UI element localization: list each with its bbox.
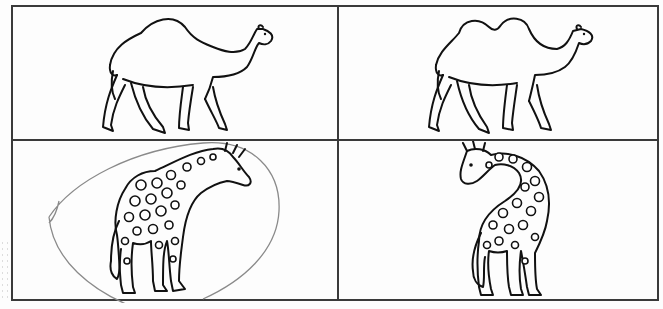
cell-giraffe-head-right[interactable] (13, 141, 337, 301)
giraffe-head-left-icon (339, 141, 659, 303)
worksheet (0, 0, 663, 309)
cell-camel-one-hump[interactable] (13, 7, 337, 139)
camel-one-hump-icon (13, 7, 337, 139)
giraffe-head-right-icon (13, 141, 337, 303)
camel-two-humps-icon (339, 7, 659, 139)
cell-giraffe-head-left[interactable] (339, 141, 659, 301)
giraffe-spots (484, 153, 544, 264)
picture-grid (11, 5, 659, 301)
cell-camel-two-humps[interactable] (339, 7, 659, 139)
